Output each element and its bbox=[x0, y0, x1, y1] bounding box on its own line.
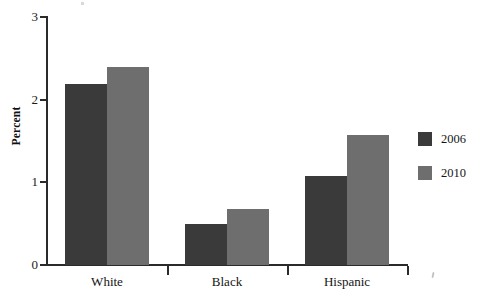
bar-white-2006 bbox=[65, 84, 107, 265]
bar-chart: Percent 0123 WhiteBlackHispanic 20062010 bbox=[0, 0, 479, 298]
bar-white-2010 bbox=[107, 67, 149, 265]
legend-item-2010: 2010 bbox=[418, 165, 476, 181]
y-axis-tick bbox=[40, 264, 47, 266]
legend-label-2006: 2006 bbox=[441, 133, 466, 146]
y-axis-tick bbox=[40, 16, 47, 18]
bar-group bbox=[47, 17, 167, 265]
scan-artifact-speck-top bbox=[81, 2, 84, 5]
legend-item-2006: 2006 bbox=[418, 131, 476, 147]
y-axis-tick-label-text: 0 bbox=[8, 258, 38, 271]
y-axis-tick-label-text: 3 bbox=[8, 10, 38, 23]
y-axis-tick bbox=[40, 181, 47, 183]
bar-hispanic-2010 bbox=[347, 135, 389, 265]
y-axis-tick-label-text: 2 bbox=[8, 93, 38, 106]
legend-swatch-2006 bbox=[418, 132, 432, 146]
legend-swatch-2010 bbox=[418, 166, 432, 180]
bar-black-2006 bbox=[185, 224, 227, 265]
x-axis-label-white: White bbox=[47, 274, 167, 289]
plot-area bbox=[47, 17, 407, 265]
x-axis-tick bbox=[407, 266, 409, 275]
bar-hispanic-2006 bbox=[305, 176, 347, 265]
y-axis-tick bbox=[40, 99, 47, 101]
bar-group bbox=[167, 17, 287, 265]
x-axis-label-hispanic: Hispanic bbox=[287, 274, 407, 289]
legend: 20062010 bbox=[418, 131, 476, 199]
y-axis-tick-label-text: 1 bbox=[8, 175, 38, 188]
x-axis-label-black: Black bbox=[167, 274, 287, 289]
bar-group bbox=[287, 17, 407, 265]
bar-black-2010 bbox=[227, 209, 269, 265]
scan-artifact-speck bbox=[431, 272, 434, 278]
legend-label-2010: 2010 bbox=[441, 167, 466, 180]
